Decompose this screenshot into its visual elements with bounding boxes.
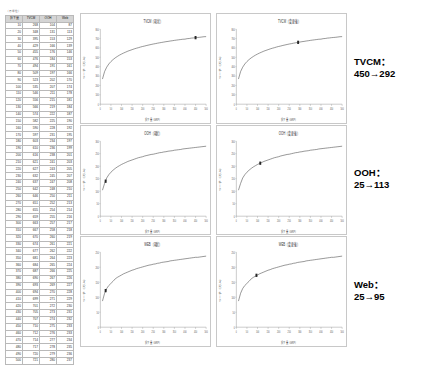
table-cell[interactable]: 200 xyxy=(6,152,23,159)
table-cell[interactable]: 235 xyxy=(57,344,74,351)
table-cell[interactable]: 701 xyxy=(23,303,40,310)
table-cell[interactable]: 370 xyxy=(6,269,23,276)
table-cell[interactable]: 380 xyxy=(6,275,23,282)
table-row[interactable]: 440707274232 xyxy=(6,316,74,323)
table-row[interactable]: 160590228192 xyxy=(6,125,74,132)
table-cell[interactable]: 221 xyxy=(57,241,74,248)
table-cell[interactable]: 50 xyxy=(6,50,23,57)
table-cell[interactable]: 440 xyxy=(6,316,23,323)
table-cell[interactable]: 670 xyxy=(23,234,40,241)
table-cell[interactable]: 217 xyxy=(57,221,74,228)
table-cell[interactable]: 255 xyxy=(40,214,57,221)
table-cell[interactable]: 225 xyxy=(40,118,57,125)
reach-data-table[interactable]: 投下量TVCMOOHWeb 10268104872034813111330395… xyxy=(5,15,74,365)
table-cell[interactable]: 252 xyxy=(40,200,57,207)
table-cell[interactable]: 681 xyxy=(23,255,40,262)
table-cell[interactable]: 211 xyxy=(40,91,57,98)
data-point-marker[interactable] xyxy=(259,161,261,164)
table-cell[interactable]: 470 xyxy=(6,337,23,344)
table-row[interactable]: 380690267226 xyxy=(6,275,74,282)
table-cell[interactable]: 273 xyxy=(40,310,57,317)
table-cell[interactable]: 264 xyxy=(40,255,57,262)
data-point-marker[interactable] xyxy=(105,179,107,182)
table-cell[interactable]: 637 xyxy=(23,180,40,187)
table-cell[interactable]: 663 xyxy=(23,221,40,228)
table-row[interactable]: 210621241203 xyxy=(6,159,74,166)
table-cell[interactable]: 153 xyxy=(40,36,57,43)
table-cell[interactable]: 202 xyxy=(40,77,57,84)
table-cell[interactable]: 582 xyxy=(23,118,40,125)
table-cell[interactable]: 40 xyxy=(6,43,23,50)
table-row[interactable]: 80509197166 xyxy=(6,70,74,77)
table-cell[interactable]: 139 xyxy=(57,43,74,50)
table-cell[interactable]: 651 xyxy=(23,200,40,207)
table-cell[interactable]: 190 xyxy=(6,145,23,152)
table-cell[interactable]: 450 xyxy=(6,323,23,330)
table-cell[interactable]: 174 xyxy=(57,84,74,91)
table-cell[interactable]: 216 xyxy=(57,214,74,221)
table-row[interactable]: 100535207174 xyxy=(6,84,74,91)
table-row[interactable]: 170597231195 xyxy=(6,132,74,139)
chart-ooh-revised[interactable]: OOH（変更後）05010015020025030005010015020025… xyxy=(216,125,347,236)
table-cell[interactable]: 214 xyxy=(57,207,74,214)
table-cell[interactable]: 130 xyxy=(6,104,23,111)
table-row[interactable]: 270651252213 xyxy=(6,200,74,207)
table-cell[interactable]: 268 xyxy=(23,22,40,29)
table-row[interactable]: 430705273231 xyxy=(6,310,74,317)
table-row[interactable]: 230632245207 xyxy=(6,173,74,180)
table-cell[interactable]: 230 xyxy=(57,303,74,310)
table-cell[interactable]: 500 xyxy=(6,357,23,364)
table-cell[interactable]: 494 xyxy=(23,63,40,70)
table-cell[interactable]: 684 xyxy=(23,262,40,269)
table-cell[interactable]: 455 xyxy=(23,50,40,57)
table-cell[interactable]: 210 xyxy=(6,159,23,166)
table-row[interactable]: 330674261221 xyxy=(6,241,74,248)
table-cell[interactable]: 429 xyxy=(23,43,40,50)
table-row[interactable]: 190610236199 xyxy=(6,145,74,152)
table-cell[interactable]: 166 xyxy=(57,70,74,77)
table-cell[interactable]: 523 xyxy=(23,77,40,84)
table-row[interactable]: 350681264223 xyxy=(6,255,74,262)
table-cell[interactable]: 240 xyxy=(6,180,23,187)
table-row[interactable]: 260646250211 xyxy=(6,193,74,200)
table-cell[interactable]: 181 xyxy=(57,97,74,104)
table-cell[interactable]: 720 xyxy=(23,351,40,358)
table-cell[interactable]: 250 xyxy=(40,193,57,200)
table-cell[interactable]: 275 xyxy=(40,323,57,330)
table-cell[interactable]: 208 xyxy=(57,180,74,187)
table-cell[interactable]: 140 xyxy=(6,111,23,118)
table-cell[interactable]: 280 xyxy=(40,357,57,364)
table-cell[interactable]: 225 xyxy=(57,269,74,276)
table-row[interactable]: 110546211178 xyxy=(6,91,74,98)
table-cell[interactable]: 231 xyxy=(57,310,74,317)
table-cell[interactable]: 330 xyxy=(6,241,23,248)
table-cell[interactable]: 197 xyxy=(40,70,57,77)
table-cell[interactable]: 687 xyxy=(23,269,40,276)
table-cell[interactable]: 616 xyxy=(23,152,40,159)
table-cell[interactable]: 104 xyxy=(40,22,57,29)
table-cell[interactable]: 211 xyxy=(57,193,74,200)
chart-tvcm-revised[interactable]: TVCM（変更後）0100200300400500600700800050100… xyxy=(216,13,347,124)
table-row[interactable]: 40429166139 xyxy=(6,43,74,50)
table-cell[interactable]: 254 xyxy=(40,207,57,214)
table-row[interactable]: 250642248210 xyxy=(6,186,74,193)
table-cell[interactable]: 231 xyxy=(40,132,57,139)
table-cell[interactable]: 271 xyxy=(40,296,57,303)
table-cell[interactable]: 80 xyxy=(6,70,23,77)
table-cell[interactable]: 590 xyxy=(23,125,40,132)
table-cell[interactable]: 192 xyxy=(57,125,74,132)
table-cell[interactable]: 227 xyxy=(57,282,74,289)
table-cell[interactable]: 535 xyxy=(23,84,40,91)
data-point-marker[interactable] xyxy=(105,289,107,292)
table-row[interactable]: 70494191161 xyxy=(6,63,74,70)
table-cell[interactable]: 261 xyxy=(40,241,57,248)
table-cell[interactable]: 222 xyxy=(40,111,57,118)
table-cell[interactable]: 646 xyxy=(23,193,40,200)
table-cell[interactable]: 274 xyxy=(40,316,57,323)
table-cell[interactable]: 236 xyxy=(40,145,57,152)
table-row[interactable]: 130566219184 xyxy=(6,104,74,111)
table-cell[interactable]: 224 xyxy=(57,262,74,269)
table-cell[interactable]: 556 xyxy=(23,97,40,104)
table-row[interactable]: 340677262222 xyxy=(6,248,74,255)
table-cell[interactable]: 460 xyxy=(6,330,23,337)
